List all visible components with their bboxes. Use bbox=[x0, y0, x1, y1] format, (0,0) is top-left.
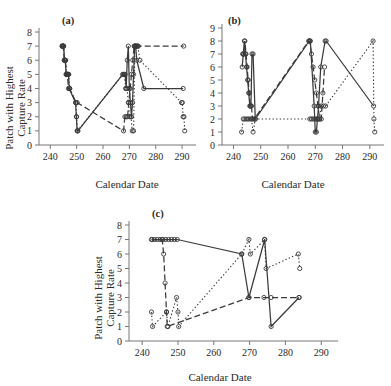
panel-b-label: (b) bbox=[228, 15, 241, 27]
series-line-solid bbox=[62, 46, 183, 131]
y-tick-label: 8 bbox=[117, 220, 122, 231]
y-tick-label: 4 bbox=[210, 88, 215, 99]
x-tick-label: 250 bbox=[253, 151, 268, 162]
y-tick-label: 7 bbox=[27, 41, 32, 52]
y-tick-label: 8 bbox=[210, 36, 215, 47]
panel-c-plot: Patch with Highest Capture Rate (c) 2402… bbox=[60, 193, 350, 386]
x-tick-label: 240 bbox=[135, 347, 150, 358]
y-tick-label: 6 bbox=[210, 62, 215, 73]
data-point-marker bbox=[298, 266, 302, 270]
x-tick-label: 270 bbox=[122, 151, 137, 162]
x-tick-label: 290 bbox=[314, 347, 329, 358]
panel-c-label: (c) bbox=[152, 208, 164, 220]
panel-b-plot: (b) 2402502602702802900123456789 Calenda… bbox=[196, 0, 391, 193]
panel-a-plot: Patch with Highest Capture Rate (a) 2402… bbox=[0, 0, 196, 193]
panel-c-y-axis-title-line1: Patch with Highest bbox=[92, 256, 104, 340]
y-tick-label: 5 bbox=[27, 69, 32, 80]
panel-b: (b) 2402502602702802900123456789 Calenda… bbox=[196, 0, 391, 193]
panel-a-x-axis-title: Calendar Date bbox=[95, 178, 158, 190]
panel-a-axes: 240250260270280290012345678 bbox=[27, 27, 196, 163]
x-tick-label: 240 bbox=[43, 151, 58, 162]
series-line-solid bbox=[151, 240, 299, 327]
y-tick-label: 9 bbox=[210, 23, 215, 34]
x-tick-label: 250 bbox=[170, 347, 185, 358]
y-tick-label: 2 bbox=[210, 114, 215, 125]
series-line-dotted bbox=[151, 240, 299, 327]
y-tick-label: 2 bbox=[27, 111, 32, 122]
y-tick-label: 4 bbox=[27, 83, 32, 94]
x-tick-label: 280 bbox=[148, 151, 163, 162]
panel-b-x-axis-title: Calendar Date bbox=[261, 178, 324, 190]
series-line-dashed bbox=[152, 240, 299, 327]
y-tick-label: 7 bbox=[210, 49, 215, 60]
x-tick-label: 290 bbox=[362, 151, 377, 162]
x-tick-label: 260 bbox=[281, 151, 296, 162]
y-tick-label: 0 bbox=[27, 140, 32, 151]
panel-c: Patch with Highest Capture Rate (c) 2402… bbox=[60, 193, 350, 386]
panel-a-y-axis-title-line2: Capture Rate bbox=[15, 79, 27, 137]
y-tick-label: 8 bbox=[27, 27, 32, 38]
panel-c-x-axis-title: Calendar Date bbox=[188, 371, 251, 383]
x-tick-label: 260 bbox=[206, 347, 221, 358]
x-tick-label: 270 bbox=[308, 151, 323, 162]
y-tick-label: 0 bbox=[117, 336, 122, 347]
y-tick-label: 0 bbox=[210, 140, 215, 151]
y-tick-label: 5 bbox=[117, 263, 122, 274]
y-tick-label: 7 bbox=[117, 234, 122, 245]
x-tick-label: 270 bbox=[242, 347, 257, 358]
x-tick-label: 260 bbox=[96, 151, 111, 162]
y-tick-label: 3 bbox=[117, 292, 122, 303]
x-tick-label: 280 bbox=[335, 151, 350, 162]
y-tick-label: 3 bbox=[27, 97, 32, 108]
panel-b-series-group bbox=[240, 39, 377, 134]
panel-c-y-axis-title-line2: Capture Rate bbox=[104, 269, 116, 327]
figure-three-panel-capture-rate: Patch with Highest Capture Rate (a) 2402… bbox=[0, 0, 391, 386]
y-tick-label: 6 bbox=[117, 249, 122, 260]
y-tick-label: 1 bbox=[27, 125, 32, 136]
x-tick-label: 250 bbox=[69, 151, 84, 162]
y-tick-label: 1 bbox=[210, 127, 215, 138]
panel-a-series-group bbox=[60, 44, 187, 133]
panel-c-series-group bbox=[149, 237, 301, 328]
x-tick-label: 240 bbox=[226, 151, 241, 162]
y-tick-label: 6 bbox=[27, 55, 32, 66]
panel-a: Patch with Highest Capture Rate (a) 2402… bbox=[0, 0, 196, 193]
y-tick-label: 5 bbox=[210, 75, 215, 86]
panel-b-axes: 2402502602702802900123456789 bbox=[210, 23, 384, 163]
y-tick-label: 4 bbox=[117, 278, 122, 289]
y-tick-label: 2 bbox=[117, 307, 122, 318]
y-tick-label: 3 bbox=[210, 101, 215, 112]
panel-a-label: (a) bbox=[62, 15, 75, 27]
x-tick-label: 290 bbox=[175, 151, 190, 162]
panel-a-y-axis-title-line1: Patch with Highest bbox=[3, 66, 15, 150]
x-tick-label: 280 bbox=[278, 347, 293, 358]
y-tick-label: 1 bbox=[117, 321, 122, 332]
